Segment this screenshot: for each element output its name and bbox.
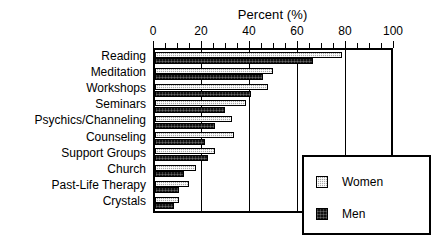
bar-women-workshops xyxy=(155,84,268,90)
bar-men-past-life-therapy xyxy=(155,187,179,193)
bar-men-reading xyxy=(155,58,313,64)
bar-men-workshops xyxy=(155,91,251,97)
x-tick-label-80: 80 xyxy=(338,24,351,38)
legend-swatch-men-icon xyxy=(316,208,328,220)
bar-women-support-groups xyxy=(155,148,215,154)
tick-major-100 xyxy=(393,41,394,48)
bar-women-church xyxy=(155,165,196,171)
bar-men-support-groups xyxy=(155,155,208,161)
bar-women-crystals xyxy=(155,197,179,203)
bar-women-reading xyxy=(155,52,342,58)
bar-men-psychics-channeling xyxy=(155,123,215,129)
x-tick-label-40: 40 xyxy=(242,24,255,38)
x-axis-tick-labels: 020406080100 xyxy=(0,24,431,38)
x-tick-label-20: 20 xyxy=(194,24,207,38)
axis-title-text: Percent (%) xyxy=(238,7,308,22)
legend-item-men: Men xyxy=(316,207,365,221)
bar-women-meditation xyxy=(155,68,273,74)
tick-major-40 xyxy=(249,41,250,48)
bar-women-counseling xyxy=(155,132,234,138)
x-axis-tick-marks xyxy=(0,41,431,48)
tick-major-0 xyxy=(153,41,154,48)
bar-men-seminars xyxy=(155,107,225,113)
category-label-reading: Reading xyxy=(101,50,146,62)
bar-chart-figure: Percent (%) 020406080100 ReadingMeditati… xyxy=(0,0,431,235)
category-label-workshops: Workshops xyxy=(86,82,146,94)
bar-men-counseling xyxy=(155,139,205,145)
x-tick-label-60: 60 xyxy=(290,24,303,38)
bar-men-crystals xyxy=(155,203,174,209)
category-label-crystals: Crystals xyxy=(103,195,146,207)
category-label-psychics-channeling: Psychics/Channeling xyxy=(35,114,146,126)
category-label-meditation: Meditation xyxy=(91,66,146,78)
y-axis-category-labels: ReadingMeditationWorkshopsSeminarsPsychi… xyxy=(0,48,150,213)
chart-axis-title: Percent (%) xyxy=(0,7,431,22)
tick-major-20 xyxy=(201,41,202,48)
bar-men-meditation xyxy=(155,74,263,80)
bar-men-church xyxy=(155,171,184,177)
chart-legend: Women Men xyxy=(302,155,431,235)
tick-major-60 xyxy=(297,41,298,48)
legend-label-men: Men xyxy=(342,207,365,221)
bar-women-past-life-therapy xyxy=(155,181,189,187)
bar-women-psychics-channeling xyxy=(155,116,232,122)
x-tick-label-0: 0 xyxy=(150,24,157,38)
tick-major-80 xyxy=(345,41,346,48)
category-label-counseling: Counseling xyxy=(86,131,146,143)
category-label-church: Church xyxy=(107,163,146,175)
category-label-seminars: Seminars xyxy=(95,98,146,110)
category-label-past-life-therapy: Past-Life Therapy xyxy=(52,179,147,191)
legend-item-women: Women xyxy=(316,175,383,189)
bar-women-seminars xyxy=(155,100,246,106)
category-label-support-groups: Support Groups xyxy=(61,147,146,159)
legend-swatch-women-icon xyxy=(316,176,328,188)
legend-label-women: Women xyxy=(342,175,383,189)
x-tick-label-100: 100 xyxy=(383,24,403,38)
